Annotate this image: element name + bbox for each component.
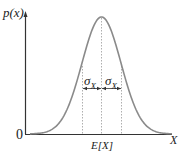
gaussian-curve	[30, 17, 172, 134]
y-axis-arrow-icon	[24, 11, 28, 17]
mean-label: E[X]	[91, 140, 113, 151]
origin-label: 0	[16, 128, 23, 142]
x-axis-label: X	[170, 134, 177, 146]
mean-label-text: E[X]	[91, 139, 113, 151]
y-axis-label: p(x)	[3, 6, 24, 19]
sigma-subscript: X	[90, 81, 96, 91]
sigma-subscript: X	[111, 81, 117, 91]
arrowhead-icon	[117, 87, 121, 90]
arrowhead-icon	[97, 87, 101, 90]
sigma-right-label: σX	[105, 74, 117, 91]
sigma-left-label: σX	[84, 74, 96, 91]
